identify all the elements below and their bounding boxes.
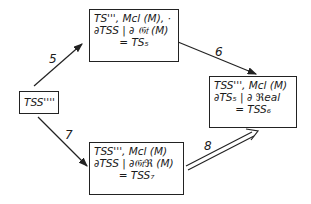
node-ts5: TS''', Mcl (M), · ∂TSS | ∂ 𝔊𝔱 (M) = TS₅ <box>89 9 179 62</box>
node-tss6-line2: ∂TS₅ | ∂ ℜeal <box>214 91 292 103</box>
node-ts5-line1: TS''', Mcl (M), · <box>94 12 174 24</box>
node-tss7-line3: = TSS₇ <box>94 169 179 181</box>
node-tss6-line3: = TSS₆ <box>214 103 292 115</box>
arrow-8-b <box>188 136 254 170</box>
arrow-7 <box>38 117 87 166</box>
node-tss6-line1: TSS''', Mcl (M) <box>214 79 292 91</box>
node-tss7-line1: TSS''', Mcl (M) <box>94 145 179 157</box>
edge-label-7: 7 <box>65 128 73 142</box>
node-tss6: TSS''', Mcl (M) ∂TS₅ | ∂ ℜeal = TSS₆ <box>209 76 297 128</box>
edge-label-6: 6 <box>215 45 223 59</box>
arrow-5 <box>34 44 82 86</box>
edge-label-5: 5 <box>49 52 57 66</box>
arrow-8-a <box>186 132 252 166</box>
node-tss-start: TSS'''' <box>19 91 59 114</box>
node-ts5-line2: ∂TSS | ∂ 𝔊𝔱 (M) <box>94 24 174 36</box>
node-tss7: TSS''', Mcl (M) ∂TSS | ∂𝔊𝔱ℜ (M) = TSS₇ <box>89 142 184 195</box>
node-tss7-line2: ∂TSS | ∂𝔊𝔱ℜ (M) <box>94 157 179 169</box>
edge-label-8: 8 <box>204 139 212 153</box>
node-ts5-line3: = TS₅ <box>94 36 174 48</box>
node-tss-start-label: TSS'''' <box>24 96 55 108</box>
